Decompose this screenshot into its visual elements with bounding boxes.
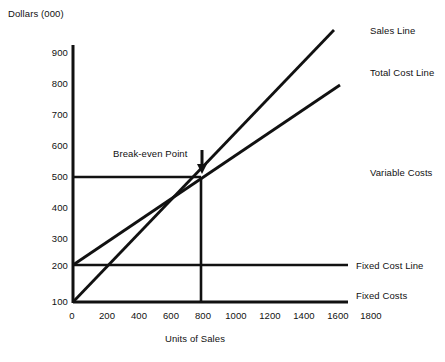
chart-plot-area	[0, 0, 445, 362]
total-cost-line	[73, 85, 340, 265]
break-even-chart: Dollars (000) 900 800 700 600 500 400 30…	[0, 0, 445, 362]
